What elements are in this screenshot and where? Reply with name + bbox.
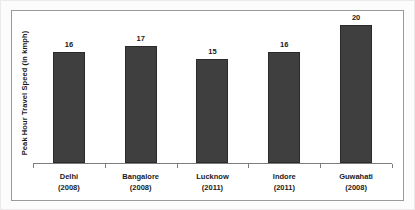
x-axis-tick	[248, 164, 249, 168]
y-axis-title: Peak Hour Travel Speed (in kmph)	[16, 19, 32, 167]
category-name-guwahati: Guwahati	[339, 172, 373, 181]
bar-value-delhi: 16	[65, 40, 73, 49]
x-axis-tick	[177, 164, 178, 168]
category-year-delhi: (2008)	[33, 182, 105, 193]
bars-layer: 16 17 15 16 20	[33, 11, 392, 163]
bar-slot-bangalore: 17	[105, 11, 177, 163]
category-name-lucknow: Lucknow	[196, 172, 229, 181]
bar-value-indore: 16	[280, 40, 288, 49]
chart-frame: Peak Hour Travel Speed (in kmph) 16 17	[11, 10, 404, 201]
category-year-lucknow: (2011)	[177, 182, 249, 193]
category-year-indore: (2011)	[248, 182, 320, 193]
bar-guwahati[interactable]	[340, 25, 372, 163]
bar-bangalore[interactable]	[125, 46, 157, 163]
plot-area: Peak Hour Travel Speed (in kmph) 16 17	[12, 11, 405, 202]
category-name-delhi: Delhi	[60, 172, 78, 181]
category-label-delhi: Delhi (2008)	[33, 171, 105, 193]
x-axis-tick	[33, 164, 34, 168]
category-label-lucknow: Lucknow (2011)	[177, 171, 249, 193]
category-label-indore: Indore (2011)	[248, 171, 320, 193]
category-name-indore: Indore	[273, 172, 296, 181]
y-axis-title-text: Peak Hour Travel Speed (in kmph)	[20, 31, 29, 156]
bar-slot-guwahati: 20	[320, 11, 392, 163]
category-label-bangalore: Bangalore (2008)	[105, 171, 177, 193]
x-axis-tick	[392, 164, 393, 168]
category-year-bangalore: (2008)	[105, 182, 177, 193]
bar-delhi[interactable]	[53, 52, 85, 163]
bar-indore[interactable]	[268, 52, 300, 163]
bar-value-lucknow: 15	[208, 47, 216, 56]
bar-lucknow[interactable]	[196, 59, 228, 163]
bar-value-guwahati: 20	[352, 13, 360, 22]
x-axis-tick	[320, 164, 321, 168]
x-axis-tick	[105, 164, 106, 168]
category-name-bangalore: Bangalore	[122, 172, 159, 181]
x-axis-categories: Delhi (2008) Bangalore (2008) Lucknow (2…	[33, 171, 392, 201]
bar-chart-figure: Peak Hour Travel Speed (in kmph) 16 17	[0, 0, 415, 210]
bar-slot-delhi: 16	[33, 11, 105, 163]
bar-slot-lucknow: 15	[177, 11, 249, 163]
category-label-guwahati: Guwahati (2008)	[320, 171, 392, 193]
bar-value-bangalore: 17	[137, 34, 145, 43]
bar-slot-indore: 16	[248, 11, 320, 163]
x-axis-line	[33, 163, 392, 164]
category-year-guwahati: (2008)	[320, 182, 392, 193]
